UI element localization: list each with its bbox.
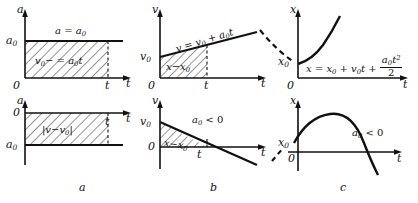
fraction-a0t2-over-2: a0t22: [380, 55, 403, 79]
kinematics-figure: a t 0 a0 t a = a0 v0− = a = a0t: [0, 0, 418, 203]
x-axis-label: t: [126, 113, 130, 124]
x-axis-label: t: [126, 78, 130, 89]
y-tick-x0: x0: [278, 56, 289, 69]
annotation-a0-negative: a0 < 0: [192, 115, 223, 127]
panel-a-top: a t 0 a0 t a = a0 v0− = a = a0t: [0, 0, 140, 95]
y-axis-label: v: [152, 4, 158, 15]
x-tick-t: t: [105, 116, 109, 127]
panel-caption-b: b: [210, 182, 217, 193]
y-axis-label: a: [17, 4, 24, 15]
x-tick-t: t: [204, 80, 208, 91]
panel-c-bottom: x t 0 x0 a0 < 0: [268, 95, 418, 180]
y-tick-v0: v0: [140, 51, 151, 64]
area-label-abs-delta-v: |v−v0|: [42, 125, 73, 137]
panel-a-bottom: a t 0 a0 t |v−v0|: [0, 95, 140, 175]
origin-label: 0: [13, 107, 20, 118]
y-tick-a0: a0: [6, 139, 17, 152]
origin-label: 0: [288, 153, 295, 164]
x-tick-t: t: [105, 80, 109, 91]
panel-c-bottom-plot: [268, 95, 418, 180]
y-tick-x0: x0: [278, 137, 289, 150]
y-tick-a0: a0: [6, 35, 17, 48]
y-tick-v0: v0: [140, 116, 151, 129]
origin-label: 0: [287, 80, 294, 91]
y-axis-label: x: [290, 95, 296, 106]
panel-caption-c: c: [340, 182, 346, 193]
position-curve: [294, 114, 378, 175]
origin-label: 0: [148, 141, 155, 152]
x-axis-label: t: [261, 147, 265, 158]
panel-b-bottom: v t 0 v0 t a0 < 0 x−x0: [135, 95, 275, 175]
y-axis-label: v: [152, 95, 158, 106]
x-axis-label: t: [403, 79, 407, 90]
equation-x: x = x0 + v0t + a0t22: [306, 55, 402, 79]
panel-caption-a: a: [79, 182, 86, 193]
x-axis-label: t: [261, 78, 265, 89]
x-tick-t: t: [197, 149, 201, 160]
x-axis-label: t: [397, 153, 401, 164]
panel-c-top: x t 0 x0 x = x0 + v0t + a0t22: [268, 0, 418, 95]
annotation-a0-negative: a0 < 0: [352, 128, 383, 140]
panel-b-top: v t 0 v0 t v = v0 + a0t x−x0: [135, 0, 275, 95]
origin-label: 0: [148, 80, 155, 91]
y-axis-label: x: [290, 4, 296, 15]
area-label-delta-v: v0− = a = a0t: [35, 56, 82, 68]
origin-label: 0: [13, 80, 20, 91]
y-axis-label: a: [17, 95, 24, 106]
area-label-delta-x: x−x0: [166, 62, 190, 74]
panel-b-bottom-plot: [135, 95, 275, 175]
equation-a: a = a0: [55, 26, 86, 38]
